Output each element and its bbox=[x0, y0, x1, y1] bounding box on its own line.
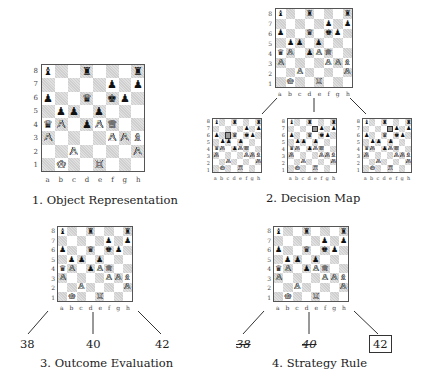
file-labels: abcdefgh bbox=[273, 304, 349, 311]
square-h5 bbox=[343, 38, 353, 48]
rank-label: 4 bbox=[264, 265, 271, 272]
rank-label: 1 bbox=[30, 161, 38, 169]
square-f6: ♚ bbox=[106, 92, 119, 105]
square-f7: ♟ bbox=[106, 78, 119, 91]
black-king-icon: ♚ bbox=[394, 133, 399, 139]
white-pawn-icon: ♙ bbox=[275, 274, 282, 282]
black-pawn-icon: ♟ bbox=[331, 126, 336, 132]
file-label: e bbox=[314, 175, 317, 181]
square-f8 bbox=[324, 9, 334, 19]
square-f3: ♙ bbox=[106, 131, 119, 144]
square-a8: ♝ bbox=[58, 227, 67, 236]
square-b2 bbox=[286, 68, 296, 78]
white-pawn-icon: ♙ bbox=[68, 265, 75, 273]
square-d6: ♛ bbox=[305, 29, 315, 39]
black-pawn-icon: ♟ bbox=[364, 133, 369, 139]
square-g7 bbox=[330, 236, 339, 245]
black-rook-icon: ♜ bbox=[406, 120, 411, 126]
black-pawn-icon: ♟ bbox=[133, 79, 143, 90]
white-pawn-icon: ♙ bbox=[59, 274, 66, 282]
square-a5 bbox=[274, 255, 283, 264]
square-f1 bbox=[106, 158, 119, 171]
square-g7 bbox=[333, 19, 343, 29]
square-g1 bbox=[330, 292, 339, 301]
square-e7 bbox=[311, 236, 320, 245]
square-b4: ♙ bbox=[283, 264, 292, 273]
black-pawn-icon: ♟ bbox=[59, 246, 66, 254]
square-h1 bbox=[131, 158, 144, 171]
square-h7: ♟ bbox=[339, 236, 348, 245]
square-h3: ♗ bbox=[131, 131, 144, 144]
black-pawn-icon: ♟ bbox=[220, 139, 225, 145]
square-a4: ♛ bbox=[274, 264, 283, 273]
square-d5 bbox=[80, 105, 93, 118]
white-pawn-icon: ♙ bbox=[296, 68, 303, 76]
chess-board-option-3[interactable]: ♝♜♜♟♟♟♛♚♟♟♟♟♛♙♟♙♕♙♙♙♗♙♙♔♖ bbox=[362, 118, 412, 173]
file-label: b bbox=[288, 90, 292, 97]
square-b5: ♟ bbox=[55, 105, 68, 118]
white-pawn-icon: ♙ bbox=[287, 49, 294, 57]
black-pawn-icon: ♟ bbox=[96, 256, 103, 264]
square-e1: ♖ bbox=[95, 292, 104, 301]
rank-label: 7 bbox=[30, 80, 38, 88]
square-e6 bbox=[95, 246, 104, 255]
square-b1: ♔ bbox=[55, 158, 68, 171]
rank-label: 1 bbox=[264, 294, 271, 301]
square-h4 bbox=[405, 146, 411, 153]
rank-label: 8 bbox=[354, 118, 360, 124]
white-pawn-icon: ♙ bbox=[295, 146, 300, 152]
square-h8: ♜ bbox=[131, 65, 144, 78]
black-bishop-icon: ♝ bbox=[275, 228, 282, 236]
file-label: h bbox=[342, 304, 346, 311]
black-pawn-icon: ♟ bbox=[344, 20, 351, 28]
rank-label: 5 bbox=[354, 139, 360, 145]
chess-board-option-1[interactable]: ♝♜♜♟♟♟♛♚♟♟♟♟♛♙♟♙♕♙♙♙♗♙♙♔♖ bbox=[212, 118, 262, 173]
caption-object-representation: 1. Object Representation bbox=[32, 193, 178, 207]
square-b8 bbox=[67, 227, 76, 236]
file-label: c bbox=[295, 304, 298, 311]
black-pawn-icon: ♟ bbox=[214, 133, 219, 139]
black-queen-icon: ♛ bbox=[43, 119, 53, 130]
square-h3: ♗ bbox=[330, 152, 336, 159]
square-f4: ♕ bbox=[324, 48, 334, 58]
square-b7 bbox=[283, 236, 292, 245]
outcome-value-3: 42 bbox=[155, 337, 170, 351]
white-rook-icon: ♖ bbox=[315, 78, 322, 86]
square-b4: ♙ bbox=[55, 118, 68, 131]
white-pawn-icon: ♙ bbox=[406, 159, 411, 165]
black-pawn-icon: ♟ bbox=[295, 139, 300, 145]
white-pawn-icon: ♙ bbox=[256, 159, 261, 165]
rank-label: 4 bbox=[265, 50, 272, 57]
square-c4 bbox=[295, 48, 305, 58]
file-label: b bbox=[370, 175, 373, 181]
white-pawn-icon: ♙ bbox=[394, 153, 399, 159]
file-label: d bbox=[308, 175, 311, 181]
white-rook-icon: ♖ bbox=[313, 166, 318, 172]
black-pawn-icon: ♟ bbox=[294, 256, 301, 264]
square-b8 bbox=[55, 65, 68, 78]
rank-label: 1 bbox=[204, 167, 210, 173]
square-e5: ♟ bbox=[93, 105, 106, 118]
chess-board-option-2[interactable]: ♝♜♜♟♟♟♛♚♟♟♟♟♛♙♟♙♕♙♙♙♗♙♙♔♖ bbox=[287, 118, 337, 173]
square-h4 bbox=[123, 264, 132, 273]
black-queen-icon: ♛ bbox=[303, 246, 310, 254]
square-c3 bbox=[77, 273, 86, 282]
square-e6 bbox=[93, 92, 106, 105]
square-a5 bbox=[58, 255, 67, 264]
square-h5 bbox=[339, 255, 348, 264]
selected-outcome: 42 bbox=[369, 335, 392, 353]
file-label: b bbox=[220, 175, 223, 181]
square-f5 bbox=[106, 105, 119, 118]
square-h6 bbox=[405, 132, 411, 139]
square-h8: ♜ bbox=[123, 227, 132, 236]
square-e3 bbox=[311, 273, 320, 282]
black-queen-icon: ♛ bbox=[306, 29, 313, 37]
square-c8 bbox=[293, 227, 302, 236]
square-a8: ♝ bbox=[276, 9, 286, 19]
square-h4 bbox=[255, 146, 261, 153]
black-pawn-icon: ♟ bbox=[313, 139, 318, 145]
square-e1: ♖ bbox=[311, 292, 320, 301]
square-g3: ♙ bbox=[114, 273, 123, 282]
square-e5: ♟ bbox=[311, 255, 320, 264]
white-pawn-icon: ♙ bbox=[244, 153, 249, 159]
